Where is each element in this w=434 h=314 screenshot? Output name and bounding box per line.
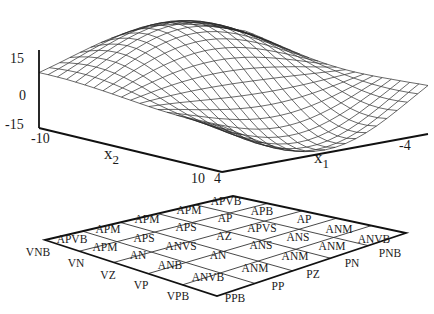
rule-cell-label: APM <box>96 223 121 235</box>
rule-cell-label: APS <box>175 221 196 233</box>
rule-cell-label: AZ <box>216 230 231 242</box>
left-axis-label: VN <box>68 257 85 269</box>
surface-axes <box>39 50 428 172</box>
figure: 15 0 -15 -10 x2 10 4 x1 -4 APVBAPMAPMAPM… <box>0 0 434 314</box>
surface-mesh <box>39 21 428 152</box>
rule-cell-label: APM <box>177 204 202 216</box>
rule-cell-label: ANM <box>242 262 269 274</box>
rule-cell-label: AP <box>297 213 312 225</box>
z-tick-top: 15 <box>10 51 24 66</box>
rule-table-right-labels: PPBPPPZPNPNB <box>225 247 402 304</box>
left-axis-label: VPB <box>167 290 190 302</box>
left-axis-label: VNB <box>26 246 51 258</box>
x2-axis-line <box>39 128 222 172</box>
rule-cell-label: ANS <box>249 239 272 251</box>
mesh-line <box>235 29 418 93</box>
right-axis-label: PP <box>272 280 285 292</box>
rule-cell-label: ANM <box>319 240 346 252</box>
mesh-line <box>140 70 346 104</box>
rule-cell-label: ANB <box>158 259 183 271</box>
rule-cell-label: ANM <box>326 223 353 235</box>
x1-axis-labels: 4 x1 -4 <box>214 138 411 186</box>
z-tick-bottom: -15 <box>5 117 24 132</box>
z-tick-mid: 0 <box>19 88 26 103</box>
left-axis-label: VZ <box>100 269 115 281</box>
right-axis-label: PN <box>345 257 360 269</box>
left-axis-label: VP <box>134 279 149 291</box>
x2-axis-labels: -10 x2 10 <box>31 131 205 186</box>
rule-cell-label: ANM <box>282 250 309 262</box>
rule-cell-label: APS <box>133 232 154 244</box>
rule-cell-label: ANVB <box>358 233 391 245</box>
rule-cell-label: ANVS <box>165 240 196 252</box>
rule-cell-label: APM <box>93 241 118 253</box>
x2-tick-start: -10 <box>31 131 50 146</box>
rule-cell-label: APM <box>135 213 160 225</box>
rule-cell-label: AN <box>130 249 147 261</box>
rule-cell-label: ANS <box>286 231 309 243</box>
right-axis-label: PPB <box>225 292 246 304</box>
right-axis-label: PZ <box>306 268 319 280</box>
mesh-line <box>214 27 397 111</box>
rule-cell-label: APVB <box>211 195 242 207</box>
right-axis-label: PNB <box>379 247 402 259</box>
rule-cell-label: ANVB <box>192 271 225 283</box>
rule-cell-label: AN <box>210 249 227 261</box>
mesh-line <box>183 22 366 133</box>
x1-tick-end: -4 <box>399 138 411 153</box>
rule-cell-label: APVS <box>247 222 276 234</box>
z-tick-labels: 15 0 -15 <box>5 51 26 132</box>
x1-axis-title: x1 <box>314 148 329 171</box>
rule-cell-label: APB <box>251 205 274 217</box>
rule-table-left-labels: VNBVNVZVPVPB <box>26 246 190 302</box>
x1-tick-start: 4 <box>214 171 221 186</box>
rule-cell-label: AP <box>218 212 233 224</box>
rule-cell-label: APVB <box>57 233 88 245</box>
x2-tick-end: 10 <box>191 171 205 186</box>
